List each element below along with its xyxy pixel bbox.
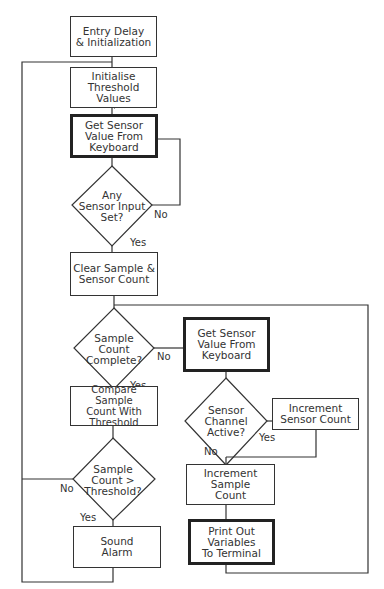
clear-counts-box: Clear Sample & Sensor Count [70,252,158,296]
gt-no-label: No [60,483,74,494]
init-threshold-box: Initialise Threshold Values [70,67,157,108]
any-no-label: No [154,209,168,220]
inc-sample-box: Increment Sample Count [186,464,275,505]
sample-complete-decision: Sample Count Complete? [86,333,142,366]
entry-delay-box: Entry Delay & Initialization [70,16,157,57]
channel-no-label: No [204,446,218,457]
gt-yes-label: Yes [80,512,96,523]
sound-alarm-box: Sound Alarm [73,526,161,568]
compare-box: Compare Sample Count With Threshold [70,386,158,426]
inc-sensor-box: Increment Sensor Count [272,398,359,430]
get-sensor-box-1: Get Sensor Value From Keyboard [70,114,158,158]
channel-active-decision: Sensor Channel Active? [204,405,247,438]
get-sensor-box-2: Get Sensor Value From Keyboard [183,317,270,372]
channel-yes-label: Yes [259,432,275,443]
any-yes-label: Yes [130,237,146,248]
count-gt-decision: Sample Count > Threshold? [84,464,141,497]
print-variables-box: Print Out Variables To Terminal [188,519,275,565]
any-input-decision: Any Sensor Input Set? [79,190,146,223]
complete-no-label: No [157,351,171,362]
